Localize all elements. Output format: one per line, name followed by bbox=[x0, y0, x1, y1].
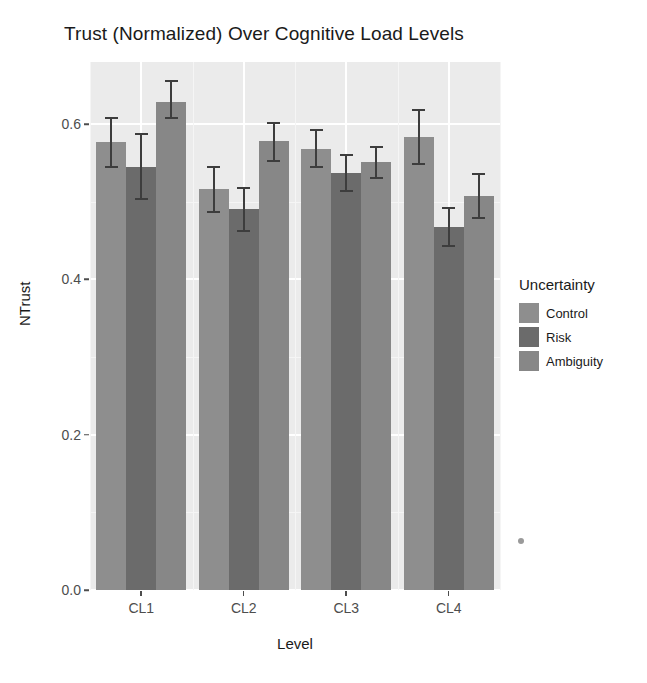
legend-items: ControlRiskAmbiguity bbox=[519, 301, 603, 373]
chart-root: Trust (Normalized) Over Cognitive Load L… bbox=[0, 0, 647, 683]
gridline-x-minor bbox=[398, 62, 399, 590]
bar bbox=[259, 141, 289, 590]
legend-label: Risk bbox=[546, 330, 571, 345]
legend: Uncertainty ControlRiskAmbiguity bbox=[519, 276, 603, 373]
x-axis-title: Level bbox=[90, 635, 500, 652]
error-bar-cap-top bbox=[442, 207, 455, 209]
chart-title: Trust (Normalized) Over Cognitive Load L… bbox=[0, 23, 528, 45]
error-bar-cap-top bbox=[340, 154, 353, 156]
bar bbox=[199, 189, 229, 590]
error-bar-line bbox=[418, 110, 420, 164]
error-bar-cap-top bbox=[310, 129, 323, 131]
x-tick-label: CL3 bbox=[333, 600, 359, 616]
error-bar-line bbox=[315, 130, 317, 166]
legend-label: Ambiguity bbox=[546, 354, 603, 369]
error-bar-cap-bottom bbox=[340, 190, 353, 192]
bar bbox=[96, 142, 126, 590]
legend-key-swatch bbox=[519, 327, 539, 347]
y-tick-mark bbox=[84, 434, 89, 436]
error-bar-cap-bottom bbox=[412, 163, 425, 165]
error-bar-line bbox=[110, 118, 112, 167]
error-bar-cap-bottom bbox=[442, 245, 455, 247]
bar bbox=[126, 167, 156, 590]
gridline-x-minor bbox=[500, 62, 501, 590]
error-bar-cap-bottom bbox=[105, 166, 118, 168]
error-bar-cap-bottom bbox=[207, 211, 220, 213]
bar bbox=[301, 149, 331, 590]
error-bar-cap-bottom bbox=[310, 166, 323, 168]
bar bbox=[361, 162, 391, 590]
legend-item: Control bbox=[519, 301, 603, 325]
bar bbox=[229, 209, 259, 590]
x-tick-mark bbox=[345, 591, 347, 596]
error-bar-cap-top bbox=[412, 109, 425, 111]
y-tick-mark bbox=[84, 123, 89, 125]
y-tick-label: 0.0 bbox=[35, 582, 81, 598]
error-bar-line bbox=[140, 134, 142, 199]
x-tick-mark bbox=[243, 591, 245, 596]
error-bar-cap-bottom bbox=[237, 230, 250, 232]
x-tick-mark bbox=[140, 591, 142, 596]
error-bar-cap-bottom bbox=[135, 198, 148, 200]
error-bar-line bbox=[213, 167, 215, 212]
bar bbox=[464, 196, 494, 590]
bar bbox=[331, 173, 361, 590]
y-tick-mark bbox=[84, 279, 89, 281]
error-bar-cap-top bbox=[267, 122, 280, 124]
y-tick-label: 0.6 bbox=[35, 116, 81, 132]
y-tick-label: 0.4 bbox=[35, 271, 81, 287]
error-bar-cap-bottom bbox=[267, 160, 280, 162]
x-tick-mark bbox=[448, 591, 450, 596]
gridline-x-minor bbox=[90, 62, 91, 590]
plot-panel bbox=[90, 62, 500, 590]
bar bbox=[434, 227, 464, 590]
error-bar-cap-bottom bbox=[370, 177, 383, 179]
error-bar-line bbox=[478, 174, 480, 218]
legend-item: Ambiguity bbox=[519, 349, 603, 373]
legend-title: Uncertainty bbox=[519, 276, 603, 293]
y-axis-title: NTrust bbox=[16, 282, 33, 326]
gridline-x-minor bbox=[295, 62, 296, 590]
y-tick-mark bbox=[84, 589, 89, 591]
bar bbox=[404, 137, 434, 590]
image-speck-artifact bbox=[518, 538, 524, 544]
gridline-x-minor bbox=[193, 62, 194, 590]
error-bar-cap-top bbox=[105, 117, 118, 119]
error-bar-cap-bottom bbox=[472, 217, 485, 219]
error-bar-cap-top bbox=[207, 166, 220, 168]
x-tick-label: CL1 bbox=[128, 600, 154, 616]
error-bar-line bbox=[375, 147, 377, 177]
error-bar-line bbox=[273, 123, 275, 161]
legend-label: Control bbox=[546, 306, 588, 321]
error-bar-cap-bottom bbox=[165, 117, 178, 119]
error-bar-cap-top bbox=[370, 146, 383, 148]
error-bar-line bbox=[448, 208, 450, 246]
legend-item: Risk bbox=[519, 325, 603, 349]
error-bar-line bbox=[345, 155, 347, 191]
legend-key-swatch bbox=[519, 351, 539, 371]
error-bar-cap-top bbox=[135, 133, 148, 135]
error-bar-line bbox=[170, 81, 172, 118]
y-tick-label: 0.2 bbox=[35, 427, 81, 443]
x-tick-label: CL2 bbox=[231, 600, 257, 616]
legend-key-swatch bbox=[519, 303, 539, 323]
error-bar-line bbox=[243, 188, 245, 231]
error-bar-cap-top bbox=[472, 173, 485, 175]
x-tick-label: CL4 bbox=[436, 600, 462, 616]
bar bbox=[156, 102, 186, 590]
error-bar-cap-top bbox=[165, 80, 178, 82]
error-bar-cap-top bbox=[237, 187, 250, 189]
